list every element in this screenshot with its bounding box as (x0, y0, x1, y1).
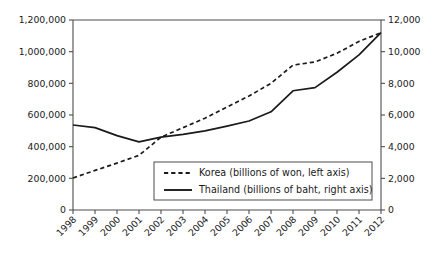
right-axis-tick-label: 12,000 (388, 14, 421, 25)
right-axis-tick-label: 8,000 (388, 78, 415, 89)
x-axis-tick-label: 2005 (208, 214, 233, 239)
x-axis-tick-label: 2009 (296, 214, 321, 239)
x-axis-tick-label: 2010 (318, 214, 343, 239)
x-axis-tick-label: 2003 (164, 214, 189, 239)
right-axis-tick-label: 2,000 (388, 173, 415, 184)
x-axis-tick-label: 2002 (142, 214, 167, 239)
legend-label-thailand: Thailand (billions of baht, right axis) (198, 184, 373, 195)
x-axis-tick-label: 2007 (252, 214, 277, 239)
left-axis-tick-label: 1,000,000 (19, 46, 66, 57)
series-line-thailand (73, 33, 381, 142)
x-axis-tick-label: 2012 (362, 214, 387, 239)
left-axis-tick-label: 0 (60, 204, 66, 215)
x-axis-tick-label: 2008 (274, 214, 299, 239)
line-chart: 0200,000400,000600,000800,0001,000,0001,… (0, 0, 447, 259)
x-axis-tick-label: 2000 (98, 214, 123, 239)
right-axis-tick-label: 0 (388, 204, 394, 215)
chart-canvas: 0200,000400,000600,000800,0001,000,0001,… (0, 0, 447, 259)
left-axis-tick-label: 1,200,000 (19, 14, 66, 25)
x-axis-tick-label: 2011 (340, 214, 365, 239)
x-axis-tick-label: 2006 (230, 214, 255, 239)
left-axis-tick-label: 200,000 (28, 173, 67, 184)
right-axis-tick-label: 10,000 (388, 46, 421, 57)
x-axis-tick-label: 1999 (76, 214, 101, 239)
left-axis-tick-label: 400,000 (28, 141, 67, 152)
x-axis-tick-label: 2001 (120, 214, 145, 239)
left-axis-tick-label: 800,000 (28, 78, 67, 89)
x-axis-tick-label: 2004 (186, 214, 211, 239)
series-line-korea (73, 33, 381, 178)
x-axis-tick-label: 1998 (54, 214, 79, 239)
right-axis-tick-label: 6,000 (388, 109, 415, 120)
right-axis-tick-label: 4,000 (388, 141, 415, 152)
left-axis-tick-label: 600,000 (28, 109, 67, 120)
legend-label-korea: Korea (billions of won, left axis) (199, 167, 349, 178)
